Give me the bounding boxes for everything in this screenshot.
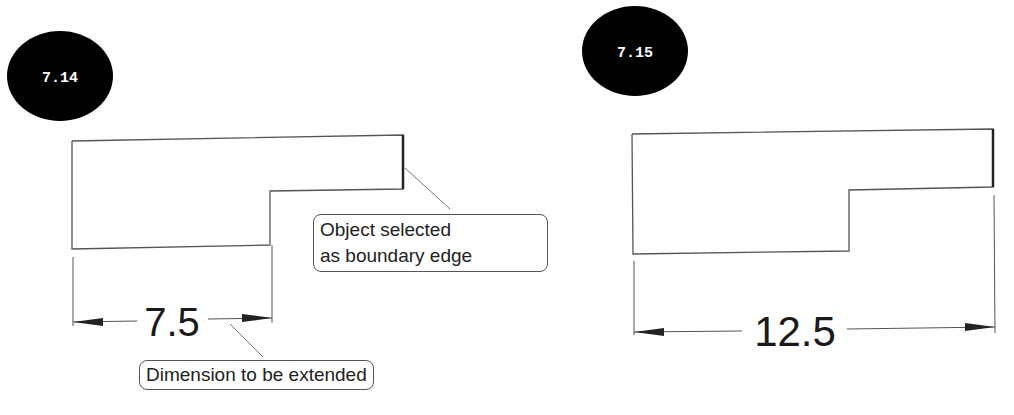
leader-boundary (405, 168, 450, 209)
callout-line: Dimension to be extended (146, 362, 367, 388)
callout-line: Object selected (320, 217, 541, 243)
figure-number: 7.15 (617, 45, 653, 62)
figure-number: 7.14 (42, 70, 78, 87)
leader-dimension (230, 324, 263, 357)
figure-7-15: 7.15 12.5 (582, 6, 995, 355)
arrowhead-right (242, 314, 272, 322)
callout-dimension: Dimension to be extended (139, 360, 374, 390)
drawing-canvas: 7.14 7.5 7.15 12.5 (0, 0, 1014, 415)
extension-line-right (994, 195, 995, 333)
callout-line: as boundary edge (320, 243, 541, 269)
arrowhead-left (634, 328, 664, 336)
arrowhead-left (73, 318, 103, 326)
arrowhead-right (965, 323, 995, 331)
stepped-profile (632, 129, 993, 254)
figure-7-14: 7.14 7.5 (7, 31, 450, 357)
dimension-value: 7.5 (144, 300, 200, 344)
dimension-value: 12.5 (754, 308, 836, 355)
callout-boundary-edge: Object selected as boundary edge (313, 214, 548, 272)
